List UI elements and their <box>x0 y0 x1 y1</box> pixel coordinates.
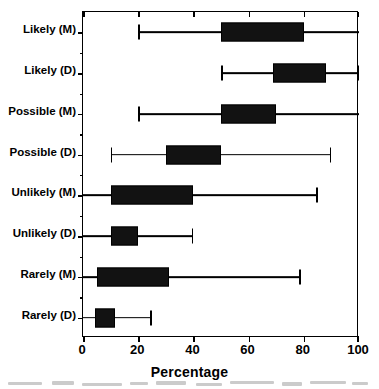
whisker-high <box>276 113 359 115</box>
y-axis-label-possible-m: Possible (M) <box>8 106 76 118</box>
box-plot-row <box>83 19 359 45</box>
y-axis-label-unlikely-m: Unlikely (M) <box>11 187 76 199</box>
whisker-low <box>83 317 95 319</box>
x-tick-top-60 <box>249 12 251 17</box>
y-axis-label-likely-m: Likely (M) <box>23 24 76 36</box>
x-tick-label-20: 20 <box>130 343 144 356</box>
x-tick-top-100 <box>357 12 359 17</box>
box-plot-row <box>83 305 359 331</box>
box-plot-row <box>83 182 359 208</box>
whisker-high <box>193 195 317 197</box>
y-tick-minor <box>80 134 83 135</box>
x-tick-top-0 <box>83 12 85 17</box>
x-tick-label-100: 100 <box>347 343 369 356</box>
caption-fragment <box>352 382 368 385</box>
y-tick-major <box>78 195 83 197</box>
box-plot-row <box>83 264 359 290</box>
whisker-cap-low <box>221 66 223 81</box>
box-iqr <box>111 227 139 246</box>
whisker-high <box>326 72 359 74</box>
whisker-cap-high <box>357 66 359 81</box>
box-plot-row <box>83 60 359 86</box>
box-plot-row <box>83 223 359 249</box>
y-axis-labels: Likely (M)Likely (D)Possible (M)Possible… <box>0 0 76 389</box>
y-axis-label-possible-d: Possible (D) <box>10 147 76 159</box>
whisker-low <box>83 235 111 237</box>
y-tick-major <box>78 114 83 116</box>
y-tick-minor <box>80 216 83 217</box>
whisker-low <box>138 113 221 115</box>
caption-fragment <box>82 383 122 386</box>
whisker-low <box>138 32 221 34</box>
whisker-cap-low <box>111 147 113 162</box>
caption-artifact <box>0 378 379 389</box>
whisker-cap-high <box>316 188 318 203</box>
y-axis-label-unlikely-d: Unlikely (D) <box>13 228 76 240</box>
whisker-cap-high <box>330 147 332 162</box>
plot-area <box>82 11 358 337</box>
x-tick-label-60: 60 <box>240 343 254 356</box>
whisker-cap-high <box>192 229 194 244</box>
y-tick-minor <box>80 94 83 95</box>
whisker-low <box>83 276 97 278</box>
box-iqr <box>95 308 115 327</box>
whisker-high <box>221 154 331 156</box>
y-tick-major <box>78 73 83 75</box>
y-tick-major <box>78 155 83 157</box>
y-axis-label-likely-d: Likely (D) <box>24 65 76 77</box>
whisker-high <box>138 235 193 237</box>
y-axis-label-rarely-d: Rarely (D) <box>22 310 76 322</box>
y-tick-minor <box>80 257 83 258</box>
whisker-low <box>221 72 273 74</box>
y-axis-label-rarely-m: Rarely (M) <box>20 269 76 281</box>
box-iqr <box>273 64 325 83</box>
box-iqr <box>166 145 221 164</box>
x-tick-top-20 <box>138 12 140 17</box>
box-plot-row <box>83 101 359 127</box>
box-iqr <box>221 23 304 42</box>
whisker-high <box>169 276 301 278</box>
chart-figure: Likely (M)Likely (D)Possible (M)Possible… <box>0 0 379 389</box>
box-iqr <box>111 186 194 205</box>
whisker-low <box>111 154 166 156</box>
whisker-cap-high <box>299 269 301 284</box>
y-tick-major <box>78 32 83 34</box>
caption-fragment <box>196 383 222 386</box>
y-tick-major <box>78 236 83 238</box>
whisker-cap-low <box>138 25 140 40</box>
x-tick-label-0: 0 <box>78 343 85 356</box>
y-tick-major <box>78 318 83 320</box>
box-iqr <box>97 267 169 286</box>
caption-fragment <box>8 382 42 385</box>
y-tick-minor <box>80 175 83 176</box>
caption-fragment <box>130 382 148 385</box>
box-plot-row <box>83 142 359 168</box>
caption-fragment <box>310 381 346 384</box>
x-tick-top-80 <box>304 12 306 17</box>
caption-fragment <box>52 381 74 385</box>
whisker-cap-low <box>138 106 140 121</box>
caption-fragment <box>230 381 274 384</box>
y-tick-major <box>78 277 83 279</box>
whisker-high <box>115 317 152 319</box>
caption-fragment <box>282 382 302 386</box>
x-tick-label-40: 40 <box>185 343 199 356</box>
whisker-cap-high <box>150 310 152 325</box>
x-tick-label-80: 80 <box>296 343 310 356</box>
caption-fragment <box>156 381 186 385</box>
whisker-low <box>83 195 111 197</box>
y-tick-minor <box>80 53 83 54</box>
whisker-high <box>304 32 359 34</box>
box-iqr <box>221 104 276 123</box>
y-tick-minor <box>80 297 83 298</box>
x-tick-top-40 <box>193 12 195 17</box>
